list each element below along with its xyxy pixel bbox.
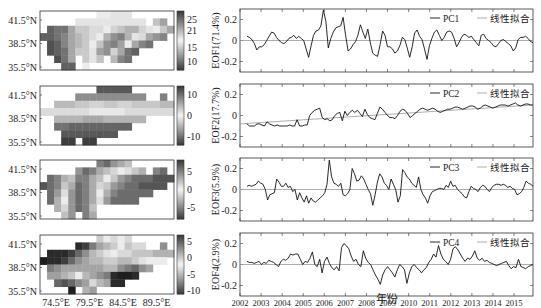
map-cell	[103, 48, 110, 56]
map-cell	[96, 197, 103, 205]
map-cell	[125, 190, 132, 198]
map-cell	[125, 18, 132, 26]
map-cell	[96, 101, 103, 109]
map-cell	[47, 257, 54, 265]
map-cell	[68, 101, 75, 109]
map-cell	[111, 26, 118, 34]
map-cell	[40, 257, 47, 265]
map-cell	[75, 272, 82, 280]
map-cell	[111, 250, 118, 258]
map-cell	[61, 138, 68, 146]
year-tick-label: 2007	[337, 298, 354, 308]
map-cell	[61, 250, 68, 258]
map-cell	[89, 250, 96, 258]
map-cell	[103, 108, 110, 116]
map-cell	[40, 33, 47, 41]
map-cell	[118, 160, 125, 168]
map-lat-label: 35.5°N	[8, 137, 37, 148]
map-cell	[125, 257, 132, 265]
map-cell	[68, 182, 75, 190]
map-cell	[61, 55, 68, 63]
year-tick-label: 2010	[400, 298, 417, 308]
colorbar-tick-label: 0	[187, 252, 192, 263]
map-cell	[68, 257, 75, 265]
map-cell	[111, 272, 118, 280]
year-tick-label: 2004	[274, 298, 292, 308]
map-cell	[146, 175, 153, 183]
map-cell	[61, 48, 68, 56]
map-cell	[89, 33, 96, 41]
year-tick-label: 2015	[506, 298, 523, 308]
map-cell	[96, 18, 103, 26]
map-cell	[132, 265, 139, 273]
map-cell	[125, 55, 132, 63]
map-cell	[132, 18, 139, 26]
legend-fit-label: 线性拟合	[490, 162, 530, 173]
map-cell	[160, 242, 167, 250]
map-cell	[118, 26, 125, 34]
legend-pc-label: PC2	[443, 89, 460, 99]
map-cell	[139, 108, 146, 116]
map-cell	[47, 265, 54, 273]
map-cell	[54, 279, 61, 287]
map-cell	[68, 41, 75, 49]
map-cell	[103, 160, 110, 168]
map-cell	[54, 108, 61, 116]
year-tick-label: 2008	[358, 298, 375, 308]
colorbar-tick-label: 21	[187, 25, 197, 36]
map-cell	[47, 48, 54, 56]
map-cell	[96, 175, 103, 183]
map-cell	[61, 265, 68, 273]
map-cell	[96, 190, 103, 198]
map-cell	[82, 197, 89, 205]
map-cell	[61, 26, 68, 34]
map-cell	[118, 86, 125, 94]
map-cell	[68, 48, 75, 56]
map-cell	[160, 250, 167, 258]
map-cell	[89, 18, 96, 26]
colorbar-tick-label: 0	[187, 184, 192, 195]
map-cell	[89, 175, 96, 183]
map-cell	[167, 250, 174, 258]
map-cell	[125, 123, 132, 131]
colorbar-tick-label: 10	[187, 89, 197, 100]
map-cell	[103, 182, 110, 190]
colorbar-4: 50-5-10	[177, 235, 200, 296]
map-cell	[118, 48, 125, 56]
year-tick-label: 2012	[442, 298, 459, 308]
map-cell	[139, 190, 146, 198]
map-cell	[89, 123, 96, 131]
map-cell	[132, 175, 139, 183]
map-cell	[54, 116, 61, 124]
pc-panel-3: 0.20-0.2EOF3(5.9%)PC3线性拟合	[210, 158, 533, 221]
map-cell	[139, 33, 146, 41]
map-cell	[82, 18, 89, 26]
map-cell	[118, 265, 125, 273]
map-cell	[96, 250, 103, 258]
map-cell	[103, 41, 110, 49]
y-tick-label: -0.2	[221, 205, 237, 216]
map-cell	[82, 265, 89, 273]
map-cell	[146, 250, 153, 258]
map-cell	[82, 108, 89, 116]
map-cell	[167, 26, 174, 34]
map-cell	[96, 182, 103, 190]
y-axis-label: EOF1(71.4%)	[210, 12, 222, 68]
map-cell	[167, 101, 174, 109]
map-cell	[153, 167, 160, 175]
map-cell	[125, 108, 132, 116]
map-cell	[118, 116, 125, 124]
map-cell	[118, 272, 125, 280]
map-cell	[75, 250, 82, 258]
map-lon-label: 89.5°E	[143, 297, 171, 308]
map-cell	[75, 123, 82, 131]
map-cell	[125, 48, 132, 56]
map-cell	[103, 33, 110, 41]
map-cell	[82, 116, 89, 124]
map-cell	[89, 197, 96, 205]
y-tick-label: -0.2	[221, 280, 237, 291]
map-cell	[160, 108, 167, 116]
map-cell	[61, 41, 68, 49]
map-cell	[54, 272, 61, 280]
pc-panel-2: 0.20-0.2EOF2(17.7%)PC2线性拟合	[210, 84, 533, 147]
